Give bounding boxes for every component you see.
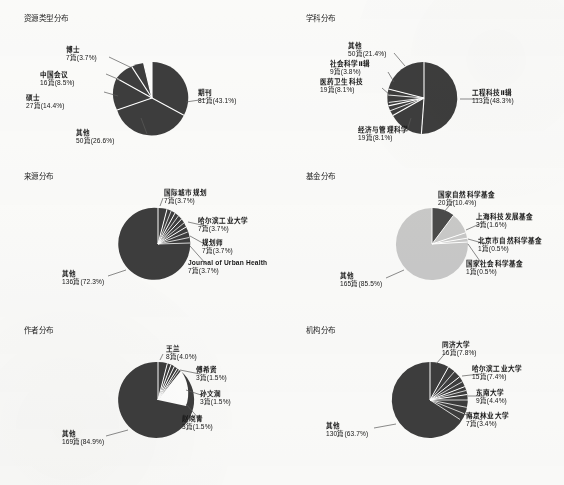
pie-label-author-4: 赵晓青 3篇(1.5%) <box>182 415 213 432</box>
pie-label-wanglan: 王兰 8篇(4.0%) <box>166 345 197 362</box>
pie-slices <box>118 208 190 280</box>
pie-label-southeast-univ: 东南大学 9篇(4.4%) <box>476 389 507 406</box>
pie-label-engineering-tech: 工程科技Ⅱ辑 113篇(48.3%) <box>472 89 514 106</box>
pie-label-beijing-fund: 北京市自然科学基金 1篇(0.5%) <box>478 237 542 254</box>
pie-plot: 国家自然科学基金 20篇(10.4%) 上海科技发展基金 3篇(1.6%) 北京… <box>282 160 564 312</box>
chart-panel-institution: 机构分布 <box>282 312 564 485</box>
chart-panel-fund: 基金分布 <box>282 160 564 312</box>
chart-panel-source: 来源分布 <box>0 160 282 312</box>
pie-label-tongji: 同济大学 16篇(7.8%) <box>442 341 477 358</box>
pie-label-other: 其他 50篇(21.4%) <box>348 42 386 59</box>
pie-slices <box>392 362 468 438</box>
pie-label-other: 其他 169篇(84.9%) <box>62 430 104 447</box>
pie-label-other: 其他 50篇(26.6%) <box>76 129 114 146</box>
pie-slices <box>396 208 468 280</box>
pie-label-other: 其他 130篇(63.7%) <box>326 422 368 439</box>
pie-label-hit: 哈尔滨工业大学 7篇(3.7%) <box>198 217 248 234</box>
pie-label-doctor: 博士 7篇(3.7%) <box>66 46 97 63</box>
pie-plot: 同济大学 16篇(7.8%) 哈尔滨工业大学 15篇(7.4%) 东南大学 9篇… <box>282 312 564 485</box>
pie-label-nsfc: 国家自然科学基金 20篇(10.4%) <box>438 191 495 208</box>
pie-plot: 期刊 81篇(43.1%) 其他 50篇(26.6%) 硕士 27篇(14.4%… <box>0 0 282 160</box>
pie-label-other: 其他 136篇(72.3%) <box>62 270 104 287</box>
pie-label-social-science-fund: 国家社会科学基金 1篇(0.5%) <box>466 260 523 277</box>
pie-label-hit: 哈尔滨工业大学 15篇(7.4%) <box>472 365 522 382</box>
pie-chart-grid: 资源类型分布 <box>0 0 564 485</box>
pie-label-urban-planning-intl: 国际城市规划 7篇(3.7%) <box>164 189 207 206</box>
chart-panel-author: 作者分布 <box>0 312 282 485</box>
chart-panel-discipline: 学科分布 <box>282 0 564 160</box>
pie-label-medical-health: 医药卫生科技 19篇(8.1%) <box>320 78 363 95</box>
pie-label-author-2: 傅希贤 3篇(1.5%) <box>196 366 227 383</box>
pie-label-nanjing-forestry: 南京林业大学 7篇(3.4%) <box>466 412 509 429</box>
pie-slices <box>387 62 457 134</box>
pie-label-china-conference: 中国会议 16篇(8.5%) <box>40 71 75 88</box>
pie-label-journal: 期刊 81篇(43.1%) <box>198 89 236 106</box>
pie-label-master: 硕士 27篇(14.4%) <box>26 94 64 111</box>
pie-label-planner: 规划师 7篇(3.7%) <box>202 239 233 256</box>
pie-label-social-science: 社会科学Ⅱ辑 9篇(3.8%) <box>330 60 370 77</box>
pie-plot: 工程科技Ⅱ辑 113篇(48.3%) 其他 50篇(21.4%) 社会科学Ⅱ辑 … <box>282 0 564 160</box>
pie-label-author-3: 孙文涧 3篇(1.5%) <box>200 390 231 407</box>
pie-plot: 王兰 8篇(4.0%) 傅希贤 3篇(1.5%) 孙文涧 3篇(1.5%) 赵晓… <box>0 312 282 485</box>
pie-plot: 国际城市规划 7篇(3.7%) 哈尔滨工业大学 7篇(3.7%) 规划师 7篇(… <box>0 160 282 312</box>
pie-slices <box>113 62 188 135</box>
pie-label-economics-management: 经济与管理科学 19篇(8.1%) <box>358 126 408 143</box>
pie-label-journal-urban-health: Journal of Urban Health 7篇(3.7%) <box>188 259 267 276</box>
chart-panel-resource-type: 资源类型分布 <box>0 0 282 160</box>
pie-label-other: 其他 165篇(85.5%) <box>340 272 382 289</box>
pie-label-shanghai-fund: 上海科技发展基金 3篇(1.6%) <box>476 213 533 230</box>
